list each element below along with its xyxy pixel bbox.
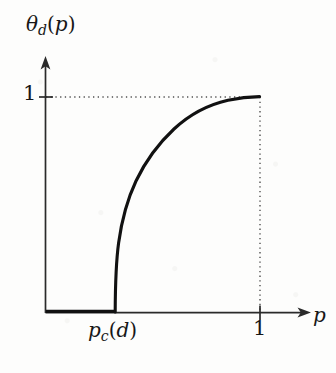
figure-canvas: θd(p) p 1 1 pc(d) xyxy=(0,0,336,373)
y-axis-tick-label-1: 1 xyxy=(23,83,36,104)
y-axis-label-subscript: d xyxy=(38,22,47,38)
pc-label-subscript: c xyxy=(101,328,109,344)
y-axis-label: θd(p) xyxy=(26,14,75,37)
y-axis-label-arg: p xyxy=(55,12,68,36)
pc-label-main: p xyxy=(88,318,101,342)
y-axis-label-open-paren: ( xyxy=(47,12,55,36)
y-axis-label-close-paren: ) xyxy=(68,12,76,36)
curve-rising-branch xyxy=(115,97,259,312)
y-axis-label-theta: θ xyxy=(26,12,38,36)
x-axis-label: p xyxy=(313,305,326,325)
x-axis-tick-label-pc: pc(d) xyxy=(88,320,137,343)
pc-label-close-paren: ) xyxy=(129,318,137,342)
plot-svg xyxy=(0,0,336,373)
pc-label-arg: d xyxy=(116,318,129,342)
x-axis-tick-label-1: 1 xyxy=(253,318,266,339)
